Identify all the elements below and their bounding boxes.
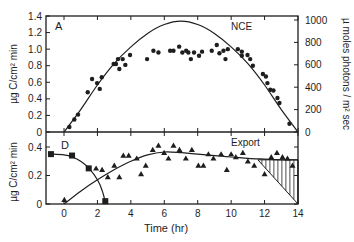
export-point — [224, 167, 230, 172]
nce-point — [117, 67, 121, 71]
x-tick-label: 8 — [195, 208, 201, 219]
export-point — [165, 155, 171, 160]
nce-point — [240, 49, 244, 53]
x-tick-label: 4 — [128, 208, 134, 219]
nce-point — [264, 74, 268, 78]
y-tick-label: 1.0 — [28, 44, 42, 55]
x-tick-label: 12 — [259, 208, 271, 219]
nce-point — [98, 87, 102, 91]
y-tick-label: 0.4 — [28, 93, 42, 104]
x-tick-label: 10 — [226, 208, 238, 219]
y-right-tick-label: 800 — [305, 37, 322, 48]
y-axis-title-bottom: µg C/cm² min — [8, 142, 19, 202]
y-axis-title-top: µg C/cm² min — [8, 44, 19, 104]
light-curve — [64, 21, 298, 132]
y-tick-label: 0.2 — [28, 110, 42, 121]
export-point — [262, 171, 268, 176]
plot-frames — [46, 16, 298, 204]
nce-point — [248, 57, 252, 61]
nce-point — [186, 50, 190, 54]
export-point — [268, 154, 274, 159]
export-point — [93, 165, 99, 170]
export-point — [289, 163, 295, 168]
nce-point — [86, 90, 90, 94]
export-point — [233, 154, 239, 159]
y-right-tick-label: 600 — [305, 59, 322, 70]
y-tick-label: 1.4 — [28, 11, 42, 22]
nce-point — [245, 53, 249, 57]
nce-point — [189, 57, 193, 61]
export-point — [99, 167, 105, 172]
nce-point — [221, 49, 225, 53]
y-tick-label: 0 — [36, 199, 42, 210]
y-right-tick-label: 1000 — [305, 15, 328, 26]
export-point — [240, 150, 246, 155]
nce-point — [90, 77, 94, 81]
x-tick-label: 2 — [95, 208, 101, 219]
export-point — [150, 147, 156, 152]
nce-point — [120, 57, 124, 61]
nce-point — [145, 57, 149, 61]
nce-point — [210, 49, 214, 53]
nce-point — [177, 44, 181, 48]
nce-point — [192, 50, 196, 54]
nce-point — [226, 47, 230, 51]
series-label-nce: NCE — [231, 21, 252, 32]
export-point — [143, 163, 149, 168]
export-point — [251, 163, 257, 168]
y-right-tick-label: 200 — [305, 104, 322, 115]
panel-label-d: D — [61, 139, 69, 151]
export-point — [183, 155, 189, 160]
export-point — [126, 153, 132, 158]
export-point — [195, 163, 201, 168]
y-tick-label: 0 — [36, 127, 42, 138]
series-label-export: Export — [231, 137, 260, 148]
x-tick-label: 14 — [292, 208, 304, 219]
y-tick-label: 0.2 — [28, 170, 42, 181]
export-point — [279, 154, 285, 159]
nce-point — [128, 53, 132, 57]
y-tick-label: 0.4 — [28, 142, 42, 153]
nce-point — [217, 51, 221, 55]
y-tick-label: 0.6 — [28, 77, 42, 88]
nce-point — [271, 88, 275, 92]
y-right-tick-label: 400 — [305, 82, 322, 93]
nce-point — [151, 49, 155, 53]
export-point — [155, 143, 161, 148]
nce-point — [171, 49, 175, 53]
export-point — [200, 163, 206, 168]
y-axis-title-right: µ moles photons / m² sec — [341, 18, 352, 130]
y-tick-label: 1.2 — [28, 27, 42, 38]
export-point — [170, 143, 176, 148]
y-tick-label: 0.8 — [28, 60, 42, 71]
nce-point — [197, 54, 201, 58]
export-point — [189, 147, 195, 152]
export-point — [120, 153, 126, 158]
nce-point — [156, 50, 160, 54]
nce-point — [223, 57, 227, 61]
export-point — [274, 150, 280, 155]
bottom-panel-export — [48, 143, 298, 205]
chart-figure: 00.20.40.60.81.01.21.4020040060080010000… — [0, 0, 354, 242]
x-axis-title: Time (hr) — [144, 222, 188, 234]
nce-point — [215, 43, 219, 47]
y-right-tick-label: 0 — [305, 127, 311, 138]
nce-point — [123, 63, 127, 67]
top-panel-nce — [64, 21, 298, 132]
nce-point — [236, 47, 240, 51]
nce-point — [265, 81, 269, 85]
panel-label-a: A — [55, 20, 63, 32]
nce-point — [275, 96, 279, 100]
export-point — [228, 151, 234, 156]
fit-curve — [51, 154, 106, 204]
x-tick-label: 0 — [61, 208, 67, 219]
nce-point — [180, 50, 184, 54]
x-tick-label: 6 — [162, 208, 168, 219]
export-point — [176, 147, 182, 152]
export-point — [111, 163, 117, 168]
nce-point — [200, 49, 204, 53]
plot-frame — [46, 16, 298, 204]
export-point — [116, 174, 122, 179]
export-point — [138, 171, 144, 176]
